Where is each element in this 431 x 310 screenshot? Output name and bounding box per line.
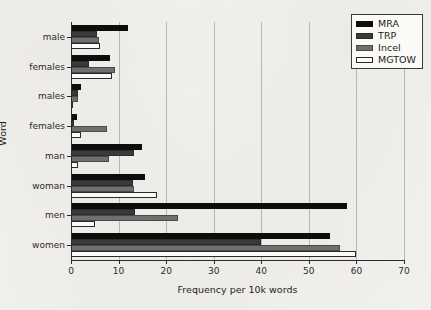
bar	[71, 162, 78, 168]
y-tick-label: women	[32, 240, 65, 250]
y-tick-mark	[67, 245, 71, 246]
x-tick-label: 0	[68, 266, 74, 276]
y-tick-mark	[67, 126, 71, 127]
y-tick-label: men	[45, 210, 65, 220]
y-axis-title: Word	[0, 121, 8, 145]
x-tick-mark	[309, 260, 310, 264]
y-tick-label: man	[45, 151, 65, 161]
y-tick-label: males	[38, 91, 65, 101]
bar-group	[71, 203, 404, 227]
x-tick-label: 40	[256, 266, 267, 276]
bar-group	[71, 144, 404, 168]
y-tick-mark	[67, 96, 71, 97]
x-tick-label: 60	[351, 266, 362, 276]
bar-chart-figure: 010203040506070 malefemalesmalesfemalesm…	[0, 0, 431, 310]
x-axis-line	[71, 260, 405, 261]
legend-label: TRP	[378, 30, 396, 41]
legend-item[interactable]: MRA	[356, 18, 416, 29]
y-tick-label: females	[29, 121, 65, 131]
x-tick-mark	[71, 260, 72, 264]
legend-swatch-icon	[356, 45, 373, 51]
x-tick-label: 30	[208, 266, 219, 276]
legend-item[interactable]: Incel	[356, 42, 416, 53]
x-tick-mark	[404, 260, 405, 264]
bar	[71, 132, 81, 138]
y-tick-mark	[67, 186, 71, 187]
y-tick-mark	[67, 156, 71, 157]
y-tick-label: male	[43, 32, 65, 42]
x-tick-label: 20	[160, 266, 171, 276]
x-tick-label: 50	[303, 266, 314, 276]
bar-group	[71, 174, 404, 198]
bar	[71, 192, 157, 198]
y-tick-mark	[67, 37, 71, 38]
y-tick-mark	[67, 215, 71, 216]
legend-label: Incel	[378, 42, 401, 53]
legend-label: MRA	[378, 18, 399, 29]
chart-legend: MRATRPIncelMGTOW	[351, 14, 423, 69]
x-tick-mark	[356, 260, 357, 264]
bar-group	[71, 114, 404, 138]
x-tick-label: 70	[398, 266, 409, 276]
legend-swatch-icon	[356, 57, 373, 63]
legend-swatch-icon	[356, 21, 373, 27]
y-tick-label: woman	[32, 181, 65, 191]
bar-group	[71, 84, 404, 108]
y-tick-mark	[67, 67, 71, 68]
x-tick-mark	[214, 260, 215, 264]
y-tick-label: females	[29, 62, 65, 72]
x-tick-mark	[166, 260, 167, 264]
legend-label: MGTOW	[378, 54, 416, 65]
x-axis-title: Frequency per 10k words	[71, 284, 404, 295]
bar	[71, 251, 356, 257]
x-tick-mark	[119, 260, 120, 264]
bar-group	[71, 233, 404, 257]
bar	[71, 221, 95, 227]
x-tick-label: 10	[113, 266, 124, 276]
x-tick-mark	[261, 260, 262, 264]
bar	[71, 43, 100, 49]
bar	[71, 73, 112, 79]
legend-swatch-icon	[356, 33, 373, 39]
legend-item[interactable]: TRP	[356, 30, 416, 41]
legend-item[interactable]: MGTOW	[356, 54, 416, 65]
y-axis-line	[71, 22, 72, 260]
